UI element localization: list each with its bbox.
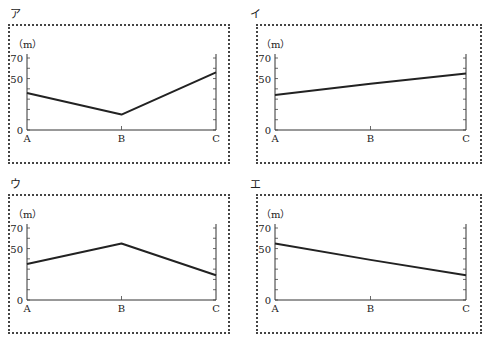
x-tick-label: C (462, 133, 470, 144)
series-line (27, 72, 216, 114)
y-tick-label: 70 (10, 53, 23, 64)
y-unit-label: （m） (13, 39, 42, 50)
x-tick-label: A (22, 133, 31, 144)
series-line (275, 73, 466, 95)
x-tick-label: B (118, 133, 125, 144)
y-unit-label: （m） (261, 39, 290, 50)
y-unit-label: （m） (261, 209, 290, 220)
x-tick-label: B (367, 133, 374, 144)
y-tick-label: 0 (17, 295, 23, 306)
y-tick-label: 0 (265, 295, 271, 306)
x-tick-label: B (367, 303, 374, 314)
x-tick-label: C (462, 303, 470, 314)
chart-panel: ウ（m）05070ABC (0, 170, 241, 340)
y-tick-label: 70 (258, 223, 271, 234)
chart-panel: ア（m）05070ABC (0, 0, 241, 170)
x-tick-label: A (270, 303, 279, 314)
series-line (27, 243, 216, 275)
line-chart: （m）05070ABC (240, 0, 481, 170)
y-tick-label: 70 (258, 53, 271, 64)
x-tick-label: C (212, 133, 220, 144)
line-chart: （m）05070ABC (0, 0, 241, 170)
y-tick-label: 0 (17, 125, 23, 136)
x-tick-label: A (270, 133, 279, 144)
x-tick-label: C (212, 303, 220, 314)
x-tick-label: A (22, 303, 31, 314)
y-unit-label: （m） (13, 209, 42, 220)
series-line (275, 243, 466, 275)
x-tick-label: B (118, 303, 125, 314)
y-tick-label: 0 (265, 125, 271, 136)
y-tick-label: 50 (258, 74, 271, 85)
chart-panel: イ（m）05070ABC (240, 0, 481, 170)
y-tick-label: 50 (10, 74, 23, 85)
y-tick-label: 70 (10, 223, 23, 234)
chart-panel: エ（m）05070ABC (240, 170, 481, 340)
y-tick-label: 50 (258, 244, 271, 255)
line-chart: （m）05070ABC (240, 170, 481, 340)
line-chart: （m）05070ABC (0, 170, 241, 340)
y-tick-label: 50 (10, 244, 23, 255)
